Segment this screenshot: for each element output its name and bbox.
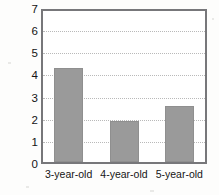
y-tick-label: 1 xyxy=(22,136,38,148)
scan-artifact xyxy=(212,18,214,20)
y-tick-label: 6 xyxy=(22,25,38,37)
y-tick-label: 0 xyxy=(22,158,38,170)
bar xyxy=(110,121,139,162)
scan-artifact xyxy=(150,190,154,192)
bar-series xyxy=(43,11,205,162)
x-tick-label: 5-year-old xyxy=(152,167,207,181)
y-tick-label: 2 xyxy=(22,114,38,126)
plot-area xyxy=(41,9,207,164)
x-axis-tick-labels: 3-year-old 4-year-old 5-year-old xyxy=(41,167,207,183)
y-tick-label: 3 xyxy=(22,92,38,104)
bar-chart-figure: Confidence in child 7 6 5 4 3 2 1 0 3-ye… xyxy=(0,0,219,195)
y-axis-tick-labels: 7 6 5 4 3 2 1 0 xyxy=(22,0,38,195)
scan-artifact xyxy=(8,62,11,64)
y-tick-label: 4 xyxy=(22,69,38,81)
x-tick-label: 4-year-old xyxy=(96,167,151,181)
x-tick-label: 3-year-old xyxy=(41,167,96,181)
y-tick-label: 7 xyxy=(22,3,38,15)
y-tick-label: 5 xyxy=(22,47,38,59)
bar xyxy=(165,106,194,162)
bar xyxy=(54,68,83,162)
